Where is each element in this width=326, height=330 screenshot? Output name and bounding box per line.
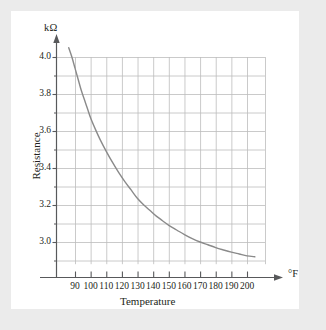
y-axis-arrow-icon [53, 34, 59, 43]
resistance-curve [69, 48, 255, 257]
y-tick-label: 4.0 [29, 51, 51, 61]
grid-vertical [76, 57, 266, 264]
y-tick-label: 3.8 [29, 88, 51, 98]
x-axis-title: Temperature [120, 295, 175, 307]
x-axis-ticks [76, 272, 248, 278]
y-axis-unit-label: kΩ [44, 22, 57, 33]
x-tick-label: 200 [236, 281, 258, 291]
y-tick-label: 3.0 [29, 236, 51, 246]
x-axis-arrow-icon [274, 274, 283, 280]
figure-page: kΩ °F Temperature Resistance 3.03.23.43.… [0, 0, 326, 330]
y-tick-label: 3.2 [29, 199, 51, 209]
y-tick-label: 3.6 [29, 125, 51, 135]
y-tick-label: 3.4 [29, 162, 51, 172]
x-axis-unit-label: °F [288, 268, 298, 279]
